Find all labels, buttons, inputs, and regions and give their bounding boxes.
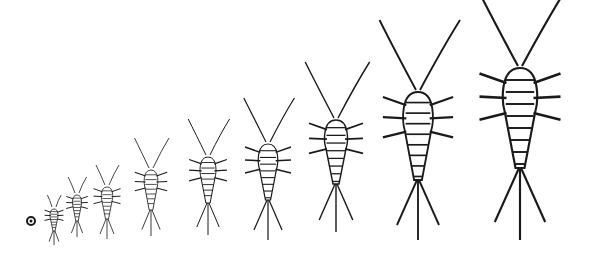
silverfish-stage-9 bbox=[477, 0, 567, 240]
silverfish-stage-3 bbox=[94, 165, 121, 239]
silverfish-stage-8 bbox=[380, 20, 461, 240]
egg bbox=[27, 217, 35, 225]
silverfish-stage-4 bbox=[135, 138, 170, 236]
silverfish-stage-2 bbox=[66, 177, 88, 237]
silverfish-stage-6 bbox=[244, 98, 295, 240]
silverfish-stage-1 bbox=[45, 195, 64, 245]
silverfish-stage-7 bbox=[305, 62, 369, 232]
silverfish-growth-illustration bbox=[0, 0, 591, 264]
silverfish-stage-5 bbox=[188, 119, 229, 235]
